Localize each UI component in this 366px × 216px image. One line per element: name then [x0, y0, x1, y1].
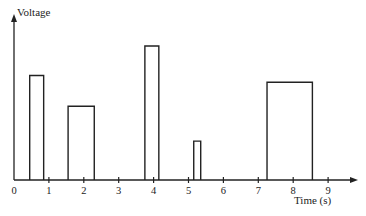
- y-axis-label: Voltage: [17, 6, 50, 18]
- voltage-pulse: [145, 46, 159, 180]
- voltage-pulse: [267, 82, 312, 180]
- x-axis-arrow-icon: [350, 177, 358, 183]
- voltage-time-chart: [0, 0, 366, 216]
- voltage-pulse: [194, 141, 201, 180]
- voltage-pulse: [30, 75, 44, 180]
- x-tick-label: 1: [42, 185, 56, 196]
- x-tick-label: 3: [112, 185, 126, 196]
- x-tick-label: 6: [216, 185, 230, 196]
- x-tick-label: 8: [286, 185, 300, 196]
- x-tick-label: 0: [7, 185, 21, 196]
- x-tick-label: 5: [182, 185, 196, 196]
- x-tick-label: 9: [321, 185, 335, 196]
- voltage-pulse: [68, 106, 94, 180]
- x-tick-label: 4: [147, 185, 161, 196]
- x-tick-label: 2: [77, 185, 91, 196]
- x-tick-label: 7: [251, 185, 265, 196]
